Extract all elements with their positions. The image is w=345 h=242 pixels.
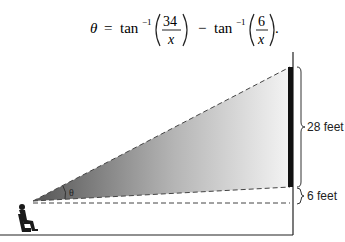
screen-height-label: 28 feet — [307, 120, 344, 134]
diagram: θ 28 feet 6 feet — [0, 0, 345, 242]
brace-28-feet — [297, 67, 305, 187]
screen-offset-label: 6 feet — [307, 189, 338, 203]
viewer-icon — [18, 204, 38, 232]
angle-label: θ — [69, 187, 74, 198]
brace-6-feet — [297, 188, 304, 204]
screen — [288, 67, 293, 187]
